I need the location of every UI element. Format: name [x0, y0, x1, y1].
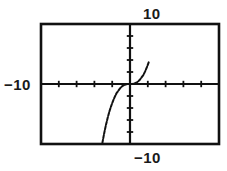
graphing-calculator-viewport: 10 −10 −10	[0, 0, 227, 171]
function-graph-icon	[0, 0, 227, 171]
